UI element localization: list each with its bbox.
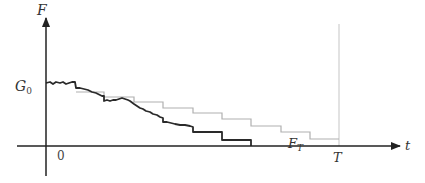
terminal-time-label: T	[333, 150, 343, 165]
origin-label: 0	[57, 149, 65, 163]
x-axis-label: t	[405, 138, 411, 153]
ft-label: FT	[287, 136, 304, 153]
g0-label: G0	[15, 78, 32, 96]
y-axis-label: F	[36, 2, 48, 18]
diagram-canvas: F t 0 G0 T FT	[0, 0, 425, 183]
